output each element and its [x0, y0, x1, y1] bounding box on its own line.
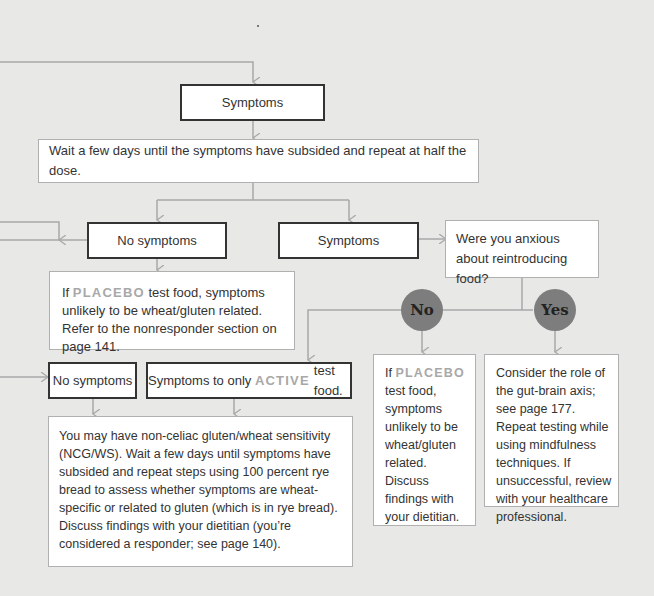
node-symptoms-top: Symptoms [180, 84, 325, 121]
node-text: You may have non-celiac gluten/wheat sen… [59, 429, 338, 551]
text-pre: If [62, 285, 73, 300]
node-text: Consider the role of the gut-brain axis;… [496, 366, 611, 524]
node-symptoms-active: Symptoms to only ACTIVE test food. [146, 362, 352, 399]
node-symptoms-mid: Symptoms [278, 222, 419, 259]
stray-dot [257, 25, 259, 27]
node-no-symptoms-mid: No symptoms [87, 222, 227, 259]
node-placebo-note: If PLACEBO test food, symptoms unlikely … [49, 271, 295, 350]
node-label: Wait a few days until the symptoms have … [49, 141, 478, 181]
node-label: No symptoms [117, 231, 196, 251]
active-accent: ACTIVE [255, 371, 310, 391]
placebo-accent: PLACEBO [73, 285, 145, 300]
node-anxious-question: Were you anxious about reintroducing foo… [445, 220, 599, 278]
placebo-accent: PLACEBO [395, 366, 465, 380]
circle-label: Yes [541, 301, 568, 319]
text-post: test food. [314, 361, 350, 401]
node-placebo-note-2: If PLACEBO test food, symptoms unlikely … [373, 354, 476, 526]
text-post: test food, symptoms unlikely to be wheat… [385, 384, 459, 524]
node-gut-brain-note: Consider the role of the gut-brain axis;… [484, 354, 619, 507]
question-line-2: about reintroducing food? [456, 249, 598, 289]
node-no-symptoms-low: No symptoms [48, 362, 137, 399]
node-label: Symptoms [222, 93, 283, 113]
circle-label: No [410, 301, 434, 319]
no-circle: No [401, 289, 443, 331]
text-pre: If [385, 366, 395, 380]
yes-circle: Yes [534, 289, 576, 331]
node-wait-half-dose: Wait a few days until the symptoms have … [38, 139, 479, 183]
node-ncgws-note: You may have non-celiac gluten/wheat sen… [48, 416, 353, 567]
node-label: Symptoms [318, 231, 379, 251]
question-line-1: Were you anxious [456, 229, 598, 249]
text-pre: Symptoms to only [148, 371, 255, 391]
node-label: No symptoms [53, 371, 132, 391]
